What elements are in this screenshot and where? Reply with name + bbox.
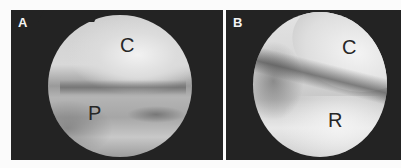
scope-edge-notch xyxy=(38,10,100,22)
annotation-c: C xyxy=(342,37,356,57)
annotation-r: R xyxy=(328,110,342,130)
annotation-p: P xyxy=(88,103,101,123)
tissue-shadow xyxy=(127,106,185,123)
panel-label-a: A xyxy=(18,16,27,29)
annotation-c: C xyxy=(120,35,134,55)
panel-b: B C R xyxy=(226,10,401,160)
tissue-shadow xyxy=(48,100,113,157)
tissue-crease xyxy=(60,80,187,94)
panel-label-b: B xyxy=(233,16,242,29)
arthroscopic-view-b xyxy=(253,12,387,157)
panel-a: A C P xyxy=(11,10,223,160)
